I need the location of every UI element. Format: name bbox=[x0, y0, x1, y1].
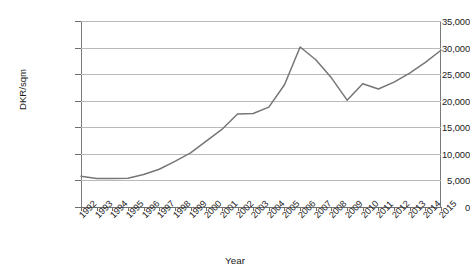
series-svg bbox=[0, 0, 470, 275]
line-chart: 35,00030,00025,00020,00015,00010,0005,00… bbox=[0, 0, 470, 275]
series-line-dkr-per-sqm bbox=[81, 47, 441, 179]
